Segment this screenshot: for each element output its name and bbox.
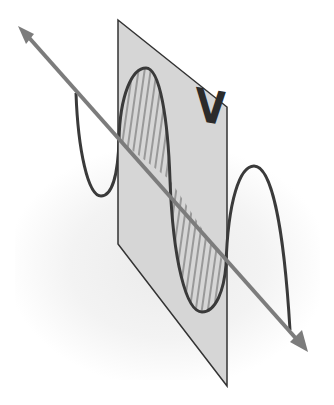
polarization-diagram: V (0, 0, 334, 405)
wave-left-lobe (76, 93, 119, 196)
plane-label: V (196, 81, 226, 132)
wave-right-lobe (226, 166, 290, 330)
diagram-svg (0, 0, 334, 405)
